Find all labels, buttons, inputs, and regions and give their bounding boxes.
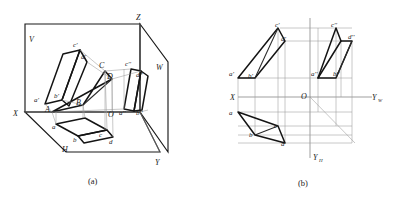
label-b-side-b: b'' xyxy=(333,70,340,78)
label-a-front-c: c' xyxy=(73,41,78,49)
label-a-side-d: d'' xyxy=(136,71,143,79)
figure-root: V H W X Y Z O A B C D a' b' c' d' a b c … xyxy=(0,0,399,199)
label-b-top-b: b xyxy=(249,131,253,139)
space-plate-abcd xyxy=(52,71,112,112)
front-view-quad-a xyxy=(45,50,80,104)
label-b-front-b: b' xyxy=(248,72,254,80)
label-a-h-plane: H xyxy=(61,145,69,154)
top-view-quad-a2 xyxy=(78,130,113,143)
label-a-axis-x: X xyxy=(12,109,19,118)
label-a-top-d: d xyxy=(109,138,113,146)
label-a-axis-y: Y xyxy=(155,158,161,167)
label-b-front-c: c' xyxy=(275,21,280,29)
label-b-side-c: c'' xyxy=(331,21,338,29)
label-b-origin: O xyxy=(301,92,307,101)
label-a-axis-z: Z xyxy=(136,13,141,22)
label-b-top-a: a xyxy=(229,109,233,117)
label-a-origin: O xyxy=(108,110,114,119)
technical-drawing-canvas: V H W X Y Z O A B C D a' b' c' d' a b c … xyxy=(0,0,399,199)
label-b-top-d: d xyxy=(281,140,285,148)
caption-a: (a) xyxy=(88,176,98,186)
label-a-front-d: d' xyxy=(81,53,87,61)
label-a-v-plane: V xyxy=(29,35,35,44)
mitre-line-45 xyxy=(310,97,355,143)
label-a-front-b: b' xyxy=(54,92,60,100)
label-a-top-b: b xyxy=(73,136,77,144)
label-a-point-C: C xyxy=(99,61,105,70)
label-a-front-a: a' xyxy=(34,96,40,104)
axis-y-line-a xyxy=(140,112,160,152)
w-plane-outline xyxy=(140,24,168,152)
h-plane-outline xyxy=(25,112,160,152)
label-a-top-a: a xyxy=(52,123,56,131)
v-plane-outline xyxy=(25,24,140,112)
label-a-point-D: D xyxy=(106,72,113,81)
label-b-axis-x: X xyxy=(229,93,236,102)
label-a-point-B: B xyxy=(76,98,81,107)
projection-lines-b xyxy=(238,28,352,143)
label-b-axis-yw-sub: W xyxy=(378,98,383,103)
label-a-top-c: c xyxy=(99,131,103,139)
label-b-side-d: d'' xyxy=(348,33,355,41)
diagram-b-group: X Y W Y H O a' b' c' d' a b c d a'' b'' … xyxy=(229,18,383,188)
label-a-side-c: c'' xyxy=(125,60,132,68)
label-b-front-a: a' xyxy=(229,70,235,78)
label-a-side-b: b'' xyxy=(136,109,143,117)
label-a-w-plane: W xyxy=(156,63,164,72)
label-a-point-A: A xyxy=(44,105,50,114)
diagram-a-group: V H W X Y Z O A B C D a' b' c' d' a b c … xyxy=(12,13,168,186)
label-a-side-a: a'' xyxy=(119,109,126,117)
label-b-front-d: d' xyxy=(281,35,287,43)
label-b-side-a: a'' xyxy=(311,70,318,78)
caption-b: (b) xyxy=(298,178,308,188)
label-b-axis-yh-sub: H xyxy=(318,158,323,163)
